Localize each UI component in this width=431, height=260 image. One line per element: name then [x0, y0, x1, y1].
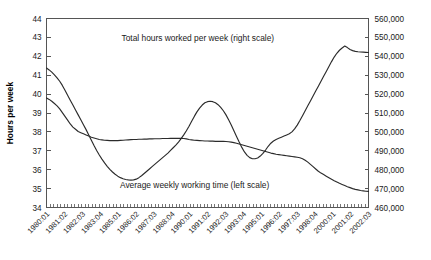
y-tick-label-right: 500,000	[375, 128, 405, 137]
y-tick-label-left: 43	[32, 33, 42, 42]
y-axis-left-labels: 3435363738394041424344	[32, 15, 42, 213]
y-tick-label-left: 38	[32, 128, 42, 137]
y-axis-title: Hours per week	[5, 81, 15, 144]
data-series-group	[47, 46, 369, 191]
y-tick-label-right: 530,000	[375, 71, 405, 80]
y-axis-left-ticks	[47, 19, 51, 208]
y-tick-label-left: 42	[32, 52, 42, 61]
y-tick-label-left: 34	[32, 204, 42, 213]
y-tick-label-right: 490,000	[375, 147, 405, 156]
y-tick-label-left: 44	[32, 15, 42, 24]
y-tick-label-right: 480,000	[375, 166, 405, 175]
y-tick-label-right: 540,000	[375, 52, 405, 61]
y-tick-label-left: 36	[32, 166, 42, 175]
series-line-average-weekly	[47, 98, 369, 192]
y-tick-label-right: 470,000	[375, 185, 405, 194]
total-hours-annotation: Total hours worked per week (right scale…	[121, 33, 274, 43]
line-chart: 3435363738394041424344 460,000470,000480…	[0, 0, 431, 260]
y-tick-label-left: 35	[32, 185, 42, 194]
y-tick-label-right: 550,000	[375, 33, 405, 42]
series-line-total-hours	[47, 46, 369, 180]
chart-container: 3435363738394041424344 460,000470,000480…	[0, 0, 431, 260]
x-axis-labels: 1980:011981:021982:031983:041985:011986:…	[26, 210, 374, 236]
y-tick-label-left: 41	[32, 71, 42, 80]
y-axis-right-ticks	[365, 19, 369, 208]
y-tick-label-right: 510,000	[375, 109, 405, 118]
average-weekly-annotation: Average weekly working time (left scale)	[120, 180, 269, 190]
y-tick-label-left: 39	[32, 109, 42, 118]
y-tick-label-right: 460,000	[375, 204, 405, 213]
y-axis-right-labels: 460,000470,000480,000490,000500,000510,0…	[375, 15, 405, 213]
y-tick-label-left: 40	[32, 90, 42, 99]
y-tick-label-left: 37	[32, 147, 42, 156]
y-tick-label-right: 520,000	[375, 90, 405, 99]
y-tick-label-right: 560,000	[375, 15, 405, 24]
